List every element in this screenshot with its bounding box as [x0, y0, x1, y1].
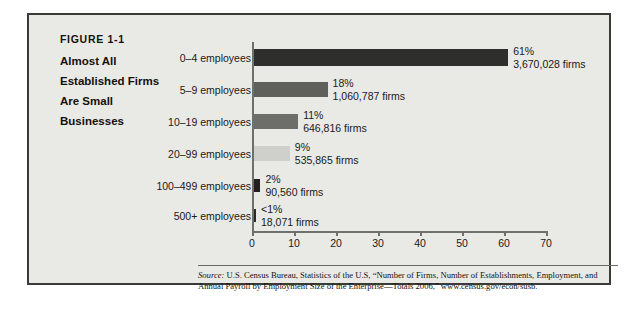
percent-label: 61% — [513, 45, 585, 58]
figure-title-line-2: Established Firms — [60, 71, 180, 91]
bar-track: 11% 646,816 firms — [252, 108, 604, 135]
chart-row: 10–19 employees 11% 646,816 firms — [164, 108, 604, 135]
figure-title-block: FIGURE 1-1 Almost All Established Firms … — [60, 33, 180, 131]
x-axis-tick-label: 70 — [540, 237, 552, 249]
bar-track: 9% 535,865 firms — [252, 140, 604, 167]
x-axis-tick-label: 0 — [249, 237, 255, 249]
firm-count-label: 535,865 firms — [295, 154, 359, 167]
firm-count-label: 18,071 firms — [261, 216, 319, 229]
chart-row: 100–499 employees 2% 90,560 firms — [164, 172, 604, 199]
figure-title-line-4: Businesses — [60, 111, 180, 131]
x-axis-tick-label: 30 — [372, 237, 384, 249]
bar-value-labels: 18% 1,060,787 firms — [328, 77, 405, 102]
category-label: 10–19 employees — [168, 116, 251, 128]
x-axis-tick-label: 60 — [498, 237, 510, 249]
figure-number: FIGURE 1-1 — [60, 33, 180, 45]
x-axis-tick — [420, 231, 422, 236]
source-note: Source: U.S. Census Bureau, Statistics o… — [198, 270, 622, 292]
y-axis-line — [252, 42, 254, 232]
bar-track: 2% 90,560 firms — [252, 172, 604, 199]
category-label: 20–99 employees — [168, 148, 251, 160]
category-label: 5–9 employees — [180, 84, 251, 96]
firm-count-label: 646,816 firms — [303, 122, 367, 135]
source-divider — [198, 265, 618, 266]
category-label: 100–499 employees — [156, 180, 251, 192]
figure-panel: FIGURE 1-1 Almost All Established Firms … — [27, 13, 611, 285]
x-axis-tick — [504, 231, 506, 236]
x-axis-tick-label: 10 — [288, 237, 300, 249]
x-axis-line — [252, 231, 546, 233]
source-label: Source: — [198, 270, 224, 280]
x-axis-tick — [294, 231, 296, 236]
firm-count-label: 3,670,028 firms — [513, 58, 585, 71]
bar-segment — [252, 146, 290, 161]
chart-row: 0–4 employees 61% 3,670,028 firms — [164, 44, 604, 71]
chart-row: 500+ employees <1% 18,071 firms — [164, 202, 604, 229]
chart-row: 5–9 employees 18% 1,060,787 firms — [164, 76, 604, 103]
firm-count-label: 1,060,787 firms — [333, 90, 405, 103]
bar-chart-plot: 0–4 employees 61% 3,670,028 firms 5–9 em… — [164, 40, 604, 235]
bar-segment — [252, 49, 508, 66]
x-axis-tick-label: 20 — [330, 237, 342, 249]
percent-label: <1% — [261, 203, 319, 216]
bar-value-labels: 11% 646,816 firms — [298, 109, 367, 134]
x-axis-tick — [378, 231, 380, 236]
percent-label: 11% — [303, 109, 367, 122]
bar-segment — [252, 82, 328, 97]
bar-value-labels: 61% 3,670,028 firms — [508, 45, 585, 70]
bar-value-labels: <1% 18,071 firms — [256, 203, 319, 228]
percent-label: 9% — [295, 141, 359, 154]
x-axis-tick-label: 40 — [414, 237, 426, 249]
category-label: 0–4 employees — [180, 52, 251, 64]
x-axis-tick — [546, 231, 548, 236]
bar-track: <1% 18,071 firms — [252, 202, 604, 229]
percent-label: 2% — [265, 173, 323, 186]
source-text: U.S. Census Bureau, Statistics of the U.… — [198, 270, 597, 291]
x-axis-tick-label: 50 — [456, 237, 468, 249]
bar-segment — [252, 114, 298, 129]
x-axis-tick — [336, 231, 338, 236]
percent-label: 18% — [333, 77, 405, 90]
figure-title-line-1: Almost All — [60, 51, 180, 71]
bar-value-labels: 9% 535,865 firms — [290, 141, 359, 166]
x-axis-tick — [252, 231, 254, 236]
bar-track: 18% 1,060,787 firms — [252, 76, 604, 103]
chart-row: 20–99 employees 9% 535,865 firms — [164, 140, 604, 167]
bar-track: 61% 3,670,028 firms — [252, 44, 604, 71]
bar-value-labels: 2% 90,560 firms — [260, 173, 323, 198]
category-label: 500+ employees — [174, 210, 251, 222]
x-axis-tick — [462, 231, 464, 236]
figure-title-line-3: Are Small — [60, 91, 180, 111]
firm-count-label: 90,560 firms — [265, 186, 323, 199]
